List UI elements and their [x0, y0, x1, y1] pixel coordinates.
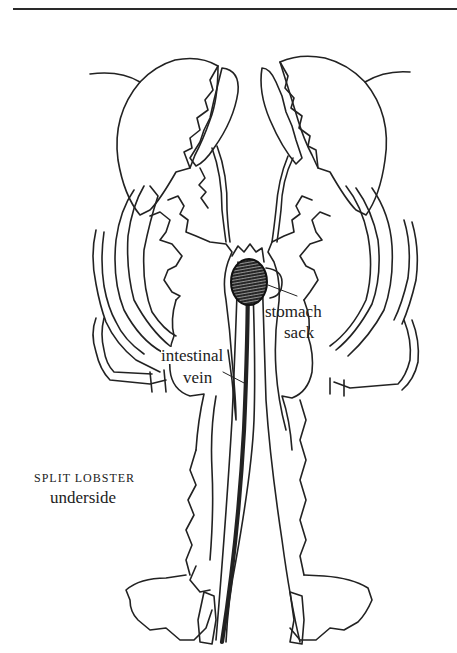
left-antenna: [90, 73, 140, 82]
left-claw: [117, 58, 238, 242]
vein-label: vein: [183, 369, 212, 386]
right-antenna: [365, 72, 410, 82]
sack-label: sack: [284, 324, 314, 341]
lobster-illustration: [0, 0, 457, 653]
stomach-sack: [231, 259, 267, 305]
stomach-leader-line: [268, 285, 297, 296]
right-body: [268, 196, 372, 644]
stomach-label: stomach: [265, 303, 322, 320]
caption-subtitle: underside: [50, 489, 116, 506]
right-legs: [330, 186, 418, 396]
caption-title: SPLIT LOBSTER: [34, 472, 135, 484]
intestinal-label: intestinal: [161, 347, 223, 364]
left-body: [126, 196, 236, 644]
